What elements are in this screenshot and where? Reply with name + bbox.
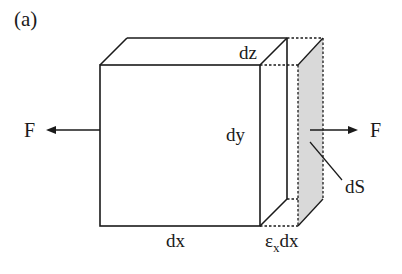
panel-label: (a) <box>14 7 37 31</box>
width-label-dx: dx <box>166 230 186 251</box>
surface-label-ds: dS <box>345 176 365 197</box>
cube-top-right-edge <box>260 38 287 65</box>
force-label-left: F <box>24 119 35 141</box>
height-label-dy: dy <box>226 124 246 145</box>
cube-bottom-right-edge <box>260 199 287 226</box>
cube-front-face <box>100 65 260 226</box>
cube-top-left-edge <box>100 38 127 65</box>
force-label-right: F <box>370 119 381 141</box>
arrowhead-left-icon <box>46 126 56 134</box>
arrowhead-right-icon <box>348 126 358 134</box>
depth-label-dz: dz <box>239 42 257 63</box>
strain-cube-diagram: (a) F F dz dy dx εxdx dS <box>0 0 402 274</box>
shaded-surface-ds <box>298 38 323 226</box>
elongation-label: εxdx <box>265 230 299 255</box>
